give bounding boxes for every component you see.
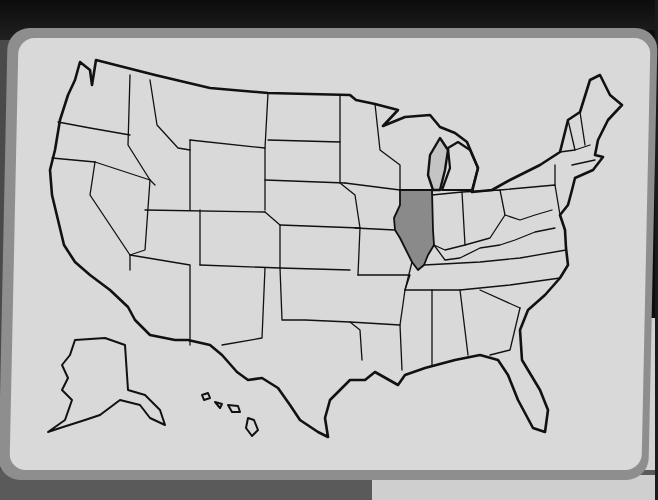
contiguous-us-outline: [50, 60, 622, 437]
alaska-outline: [48, 338, 165, 432]
hawaii-islands: [202, 393, 258, 436]
